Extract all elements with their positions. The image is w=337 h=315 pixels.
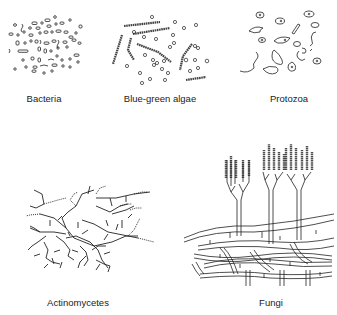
- algae-filaments: [113, 22, 206, 80]
- blue-green-algae-label: Blue-green algae: [118, 93, 202, 104]
- bacteria-panel: Bacteria: [0, 0, 110, 110]
- actinomycetes-illustration: [0, 180, 180, 280]
- conidiophore-middle: [263, 144, 284, 244]
- fungi-label: Fungi: [256, 297, 286, 308]
- bacteria-label: Bacteria: [22, 93, 66, 104]
- mycelium-hyphae: [184, 214, 334, 286]
- fungi-panel: Fungi: [180, 140, 337, 315]
- actinomycetes-panel: Actinomycetes: [0, 180, 180, 315]
- protozoa-illustration: [220, 0, 337, 90]
- protozoa-label: Protozoa: [262, 93, 316, 104]
- fungi-illustration: [180, 140, 337, 290]
- blue-green-algae-panel: Blue-green algae: [110, 0, 220, 110]
- bacteria-illustration: [0, 0, 110, 90]
- actinomycetes-label: Actinomycetes: [40, 297, 116, 308]
- conidiophore-left: [226, 156, 249, 236]
- protozoa-panel: Protozoa: [220, 0, 337, 110]
- blue-green-algae-illustration: [110, 0, 220, 90]
